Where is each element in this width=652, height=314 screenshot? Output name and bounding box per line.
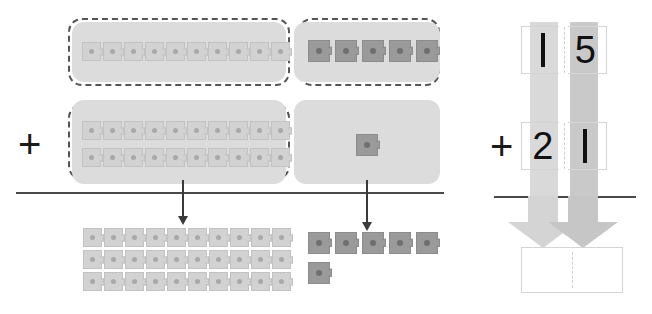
unit-cube-light — [208, 148, 227, 167]
result-ones-row-2 — [308, 262, 330, 284]
unit-cube-light — [250, 148, 269, 167]
addend-one-place-value-box: 5 — [521, 26, 607, 74]
unit-cube-light — [271, 148, 290, 167]
addend-two-tens-digit: 2 — [522, 123, 565, 169]
unit-cube-dark — [356, 134, 378, 156]
digit-one-stroke — [541, 33, 545, 67]
unit-cube-light — [187, 121, 206, 140]
cube-nub — [288, 154, 292, 161]
unit-cube-light — [103, 148, 122, 167]
cube-nub — [288, 127, 292, 134]
ones-cubes-addend-one — [308, 40, 438, 62]
tens-rod-addend-one — [82, 42, 290, 61]
unit-cube-light — [104, 250, 123, 269]
tens-rod-addend-two-a — [82, 121, 290, 140]
tens-addend-two-platter — [72, 100, 286, 184]
cube-nub — [328, 47, 332, 55]
unit-cube-light — [82, 148, 101, 167]
unit-cube-light — [272, 228, 291, 247]
addend-one-ones-digit: 5 — [565, 27, 607, 73]
unit-cube-dark — [335, 40, 357, 62]
unit-cube-light — [146, 228, 165, 247]
unit-cube-light — [209, 272, 228, 291]
addend-two-place-value-box: 2 — [521, 122, 607, 170]
digit-one-stroke — [583, 129, 587, 163]
unit-cube-light — [188, 228, 207, 247]
cube-nub — [382, 47, 386, 55]
unit-cube-light — [167, 250, 186, 269]
unit-cube-light — [251, 250, 270, 269]
cube-nub — [289, 256, 293, 263]
cube-nub — [436, 239, 440, 247]
result-ones-row-1 — [308, 232, 438, 254]
unit-cube-light — [250, 42, 269, 61]
cube-nub — [355, 239, 359, 247]
unit-cube-light — [125, 250, 144, 269]
unit-cube-light — [230, 250, 249, 269]
unit-cube-light — [146, 272, 165, 291]
unit-cube-light — [188, 250, 207, 269]
tens-rod-addend-two-b — [82, 148, 290, 167]
unit-cube-light — [251, 272, 270, 291]
result-tens-row-1 — [83, 228, 291, 247]
unit-cube-light — [125, 228, 144, 247]
unit-cube-light — [187, 148, 206, 167]
unit-cube-light — [230, 228, 249, 247]
cube-nub — [289, 234, 293, 241]
unit-cube-light — [272, 272, 291, 291]
unit-cube-light — [104, 272, 123, 291]
unit-cube-light — [103, 42, 122, 61]
unit-cube-light — [83, 250, 102, 269]
unit-cube-light — [229, 121, 248, 140]
unit-cube-light — [82, 42, 101, 61]
unit-cube-light — [208, 121, 227, 140]
ones-cubes-addend-two — [356, 134, 378, 156]
unit-cube-light — [167, 272, 186, 291]
answer-place-value-box[interactable] — [521, 247, 623, 293]
unit-cube-light — [166, 42, 185, 61]
unit-cube-dark — [308, 40, 330, 62]
answer-tens-digit[interactable] — [522, 248, 572, 292]
unit-cube-light — [188, 272, 207, 291]
unit-cube-light — [229, 148, 248, 167]
unit-cube-light — [187, 42, 206, 61]
unit-cube-dark — [308, 262, 330, 284]
result-tens-row-3 — [83, 272, 291, 291]
unit-cube-light — [124, 121, 143, 140]
cube-nub — [288, 48, 292, 55]
unit-cube-light — [125, 272, 144, 291]
unit-cube-light — [250, 121, 269, 140]
unit-cube-light — [124, 148, 143, 167]
unit-cube-light — [272, 250, 291, 269]
cube-nub — [376, 141, 380, 149]
unit-cube-light — [83, 272, 102, 291]
unit-cube-light — [229, 42, 248, 61]
cube-nub — [409, 47, 413, 55]
unit-cube-dark — [362, 232, 384, 254]
unit-cube-light — [167, 228, 186, 247]
unit-cube-light — [166, 121, 185, 140]
unit-cube-light — [82, 121, 101, 140]
worksheet-canvas: + + 5 — [0, 0, 652, 314]
unit-cube-light — [209, 250, 228, 269]
unit-cube-light — [104, 228, 123, 247]
cube-nub — [382, 239, 386, 247]
unit-cube-dark — [389, 232, 411, 254]
unit-cube-dark — [308, 232, 330, 254]
unit-cube-light — [230, 272, 249, 291]
unit-cube-dark — [416, 232, 438, 254]
answer-ones-digit[interactable] — [572, 248, 622, 292]
unit-cube-light — [271, 42, 290, 61]
operator-plus-symbolic: + — [490, 126, 513, 166]
operator-plus-blocks: + — [18, 124, 41, 164]
unit-cube-dark — [389, 40, 411, 62]
unit-cube-dark — [362, 40, 384, 62]
unit-cube-light — [124, 42, 143, 61]
cube-nub — [328, 239, 332, 247]
cube-nub — [289, 278, 293, 285]
unit-cube-light — [251, 228, 270, 247]
down-arrow-icon-ones — [362, 180, 372, 231]
addend-two-ones-digit — [565, 123, 607, 169]
unit-cube-light — [145, 42, 164, 61]
cube-nub — [409, 239, 413, 247]
